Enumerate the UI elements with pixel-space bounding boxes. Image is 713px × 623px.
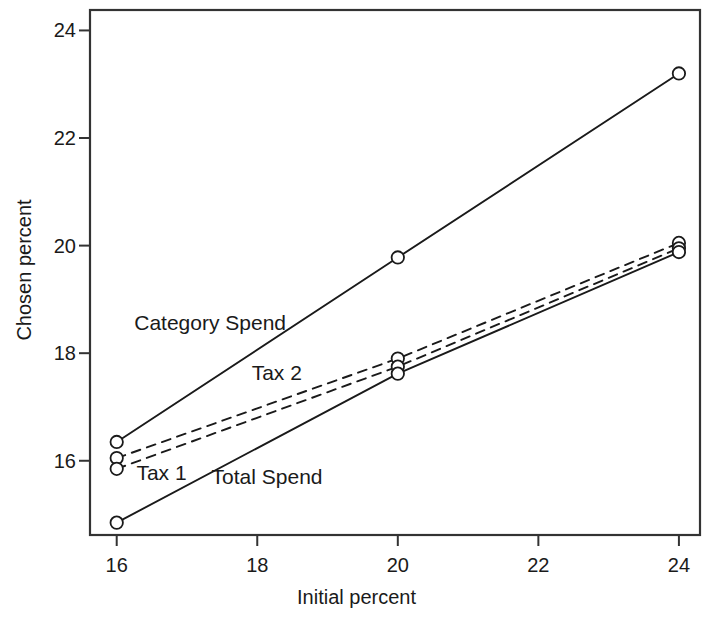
x-tick-label: 24 — [668, 554, 690, 577]
plot-border — [90, 10, 700, 535]
y-tick-label: 18 — [28, 342, 76, 365]
y-tick-label: 16 — [28, 449, 76, 472]
x-tick-label: 18 — [246, 554, 268, 577]
data-point-marker — [111, 436, 123, 448]
series-label-tax-1: Tax 1 — [136, 461, 186, 485]
series-markers — [111, 67, 686, 529]
data-point-marker — [673, 246, 685, 258]
y-axis-title: Chosen percent — [13, 199, 36, 340]
data-point-marker — [392, 251, 404, 263]
data-point-marker — [392, 367, 404, 379]
series-label-total-spend: Total Spend — [212, 465, 323, 489]
series-line-tax-2 — [117, 243, 679, 458]
data-point-marker — [111, 516, 123, 528]
series-label-category-spend: Category Spend — [134, 311, 286, 335]
plot-area — [0, 0, 713, 623]
chart-figure: 1618202224 1618202224 Category SpendTax … — [0, 0, 713, 623]
series-label-tax-2: Tax 2 — [252, 361, 302, 385]
x-tick-label: 22 — [527, 554, 549, 577]
x-tick-label: 20 — [387, 554, 409, 577]
x-tick-label: 16 — [106, 554, 128, 577]
x-axis-title: Initial percent — [0, 586, 713, 609]
y-tick-label: 24 — [28, 19, 76, 42]
data-point-marker — [673, 67, 685, 79]
series-lines — [117, 73, 679, 522]
data-point-marker — [111, 463, 123, 475]
y-tick-label: 22 — [28, 127, 76, 150]
axes-frame — [90, 10, 700, 535]
